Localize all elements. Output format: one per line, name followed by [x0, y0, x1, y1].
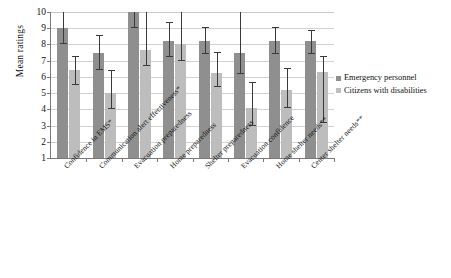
y-tick-mark — [47, 44, 51, 45]
y-tick-label: 2 — [24, 137, 46, 147]
chart-legend: Emergency personnelCitizens with disabil… — [336, 72, 427, 97]
y-tick-mark — [47, 109, 51, 110]
y-tick-mark — [47, 28, 51, 29]
x-tick-mark — [263, 158, 264, 162]
y-tick-label: 1 — [24, 153, 46, 163]
y-tick-label: 6 — [24, 72, 46, 82]
x-tick-mark — [334, 158, 335, 162]
x-tick-mark — [299, 158, 300, 162]
legend-swatch-icon — [336, 88, 341, 93]
y-tick-label: 4 — [24, 104, 46, 114]
y-tick-mark — [47, 93, 51, 94]
y-axis-tick-labels: 10987654321 — [22, 0, 46, 170]
x-tick-mark — [193, 158, 194, 162]
y-tick-mark — [47, 158, 51, 159]
y-tick-mark — [47, 77, 51, 78]
bar-chart-figure: Mean ratings 10987654321 Confidence in E… — [0, 0, 451, 278]
y-tick-label: 10 — [24, 7, 46, 17]
y-tick-mark — [47, 12, 51, 13]
x-tick-mark — [122, 158, 123, 162]
y-tick-mark — [47, 126, 51, 127]
y-tick-label: 8 — [24, 39, 46, 49]
y-tick-mark — [47, 61, 51, 62]
x-tick-mark — [228, 158, 229, 162]
legend-swatch-icon — [336, 76, 341, 81]
y-tick-mark — [47, 142, 51, 143]
legend-item: Emergency personnel — [336, 72, 427, 85]
x-tick-mark — [157, 158, 158, 162]
y-tick-label: 3 — [24, 121, 46, 131]
legend-item-label: Emergency personnel — [344, 72, 417, 85]
legend-item: Citizens with disabilities — [336, 85, 427, 98]
y-tick-label: 5 — [24, 88, 46, 98]
legend-item-label: Citizens with disabilities — [344, 85, 427, 98]
y-tick-label: 9 — [24, 23, 46, 33]
y-tick-label: 7 — [24, 56, 46, 66]
x-tick-mark — [86, 158, 87, 162]
